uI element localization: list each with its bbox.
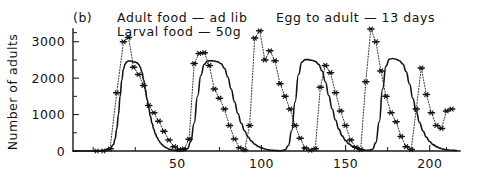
chart-axes [73,29,460,151]
axis-ticks [73,33,447,151]
panel-label: (b) [73,10,92,25]
annotation-egg-to-adult: Egg to adult — 13 days [276,10,435,25]
y-tick-label: 1000 [32,107,65,122]
x-tick-label: 150 [333,156,358,171]
data-series-group [73,27,457,153]
x-tick-label: 100 [249,156,274,171]
y-tick-label: 3000 [32,34,65,49]
figure-panel-b: 010002000300050100150200 Number of adult… [0,0,493,182]
annotation-adult-food: Adult food — ad lib [117,10,247,25]
axis-spines [73,29,460,151]
x-tick-label: 50 [169,156,186,171]
y-axis-title: Number of adults [5,34,20,151]
y-tick-label: 2000 [32,71,65,86]
observed-dotted-line [97,29,452,151]
adult-population-chart: 010002000300050100150200 Number of adult… [0,0,493,182]
y-tick-label: 0 [57,144,65,159]
x-tick-label: 200 [417,156,442,171]
annotation-larval-food: Larval food — 50g [117,24,241,39]
